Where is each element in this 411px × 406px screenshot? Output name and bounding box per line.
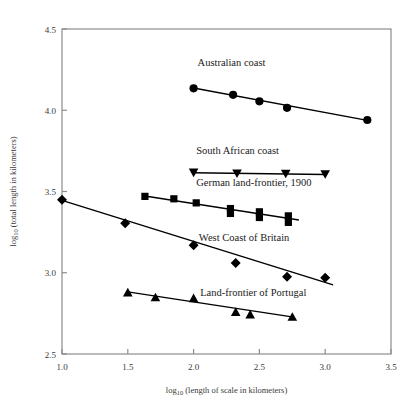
- series-line-1: [194, 173, 326, 175]
- series-label-1: South African coast: [196, 145, 279, 156]
- richardson-coastline-chart: 1.01.52.02.53.03.52.53.03.54.04.5log10 (…: [0, 0, 411, 406]
- data-point-square: [170, 195, 177, 202]
- data-point-square: [227, 210, 234, 217]
- x-tick-label: 2.0: [188, 362, 200, 372]
- data-point-circle: [229, 91, 237, 99]
- series-label-0: Australian coast: [198, 57, 266, 68]
- x-tick-label: 3.5: [385, 362, 397, 372]
- x-tick-label: 1.0: [56, 362, 68, 372]
- data-point-square: [193, 199, 200, 206]
- y-tick-label: 4.5: [45, 25, 57, 35]
- y-axis-label: log10 (total length in kilometers): [8, 136, 19, 247]
- data-point-diamond: [231, 258, 241, 268]
- chart-canvas: 1.01.52.02.53.03.52.53.03.54.04.5log10 (…: [0, 0, 411, 406]
- data-point-square: [141, 193, 148, 200]
- data-point-diamond: [57, 195, 67, 205]
- y-tick-label: 3.0: [45, 268, 57, 278]
- data-point-square: [285, 212, 292, 219]
- series-line-0: [194, 88, 368, 120]
- data-point-circle: [255, 97, 263, 105]
- x-axis-label: log10 (length of scale in kilometers): [166, 385, 288, 396]
- series-label-4: Land-frontier of Portugal: [200, 287, 306, 298]
- x-tick-label: 1.5: [122, 362, 134, 372]
- y-tick-label: 3.5: [45, 187, 57, 197]
- series-line-3: [62, 200, 333, 285]
- data-point-triangle-up: [189, 294, 199, 303]
- data-point-circle: [190, 84, 198, 92]
- data-point-circle: [283, 104, 291, 112]
- x-tick-label: 2.5: [254, 362, 266, 372]
- series-label-2: German land-frontier, 1900: [196, 177, 311, 188]
- plot-frame: [62, 29, 391, 354]
- data-point-square: [256, 214, 263, 221]
- data-point-square: [285, 219, 292, 226]
- series-label-3: West Coast of Britain: [199, 232, 290, 243]
- y-tick-label: 2.5: [45, 350, 57, 360]
- data-point-diamond: [189, 240, 199, 250]
- x-tick-label: 3.0: [320, 362, 332, 372]
- data-point-circle: [363, 116, 371, 124]
- y-tick-label: 4.0: [45, 106, 57, 116]
- series-line-2: [145, 196, 299, 220]
- data-point-diamond: [282, 272, 292, 282]
